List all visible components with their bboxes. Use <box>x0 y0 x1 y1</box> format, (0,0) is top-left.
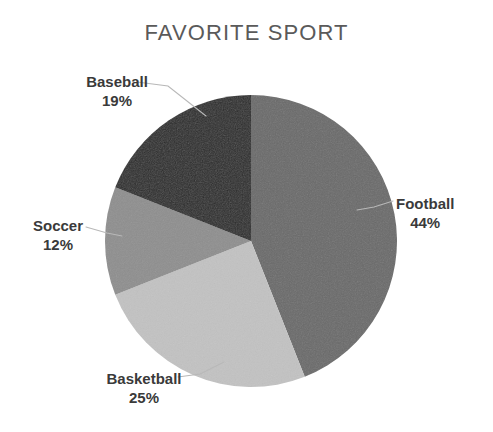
pie-label-baseball-name: Baseball <box>62 72 172 91</box>
pie-label-football-percent: 44% <box>396 213 454 232</box>
pie-chart: FAVORITE SPORT Football <box>0 0 493 432</box>
pie-label-soccer-percent: 12% <box>12 235 104 254</box>
pie-label-soccer: Soccer 12% <box>12 216 104 254</box>
pie-label-basketball-name: Basketball <box>78 369 210 388</box>
pie-label-baseball-percent: 19% <box>62 91 172 110</box>
pie-label-soccer-name: Soccer <box>12 216 104 235</box>
pie-label-basketball: Basketball 25% <box>78 369 210 407</box>
pie-slices <box>105 95 397 387</box>
pie-label-basketball-percent: 25% <box>78 388 210 407</box>
pie-label-baseball: Baseball 19% <box>62 72 172 110</box>
pie-label-football-name: Football <box>396 194 454 213</box>
pie-label-football: Football 44% <box>396 194 454 232</box>
